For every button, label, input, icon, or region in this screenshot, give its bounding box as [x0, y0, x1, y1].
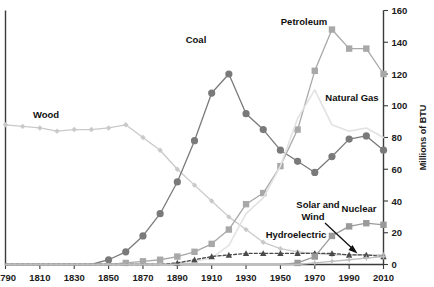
coal-label: Coal: [186, 34, 207, 45]
data-point-marker: [72, 127, 77, 132]
data-point-marker: [208, 89, 215, 96]
data-point-marker: [226, 226, 232, 232]
svg-text:1810: 1810: [29, 272, 50, 283]
data-point-marker: [312, 68, 318, 74]
svg-text:1990: 1990: [339, 272, 360, 283]
data-point-marker: [37, 125, 42, 130]
data-point-marker: [380, 222, 386, 228]
data-point-marker: [20, 124, 25, 129]
svg-text:1790: 1790: [0, 272, 16, 283]
svg-text:1890: 1890: [167, 272, 188, 283]
data-point-marker: [191, 137, 198, 144]
chart-figure: 1790181018301850187018901910193019501970…: [0, 0, 434, 287]
svg-text:0: 0: [392, 259, 397, 270]
data-point-marker: [346, 45, 352, 51]
data-point-marker: [106, 125, 111, 130]
svg-text:1850: 1850: [98, 272, 119, 283]
svg-text:140: 140: [392, 37, 408, 48]
data-point-marker: [380, 71, 386, 77]
data-point-marker: [277, 147, 284, 154]
energy-consumption-line-chart: 1790181018301850187018901910193019501970…: [0, 0, 434, 287]
solar-wind-label-line1: Solar and: [296, 199, 339, 210]
data-point-marker: [312, 253, 318, 259]
petroleum-label: Petroleum: [281, 16, 327, 27]
annotation-layer: WoodCoalPetroleumNatural GasNuclearHydro…: [33, 16, 379, 254]
svg-text:60: 60: [392, 164, 403, 175]
svg-text:2010: 2010: [373, 272, 394, 283]
series-line: [6, 90, 384, 265]
svg-text:80: 80: [392, 132, 403, 143]
svg-text:1830: 1830: [64, 272, 85, 283]
data-point-marker: [260, 126, 267, 133]
svg-text:1910: 1910: [201, 272, 222, 283]
natural-gas-label: Natural Gas: [325, 92, 378, 103]
data-point-marker: [363, 220, 369, 226]
nuclear-label: Nuclear: [342, 203, 377, 214]
data-point-marker: [243, 201, 249, 207]
svg-text:1970: 1970: [304, 272, 325, 283]
wood-label: Wood: [33, 109, 59, 120]
svg-text:1930: 1930: [235, 272, 256, 283]
data-point-marker: [139, 232, 146, 239]
series-line: [6, 125, 384, 255]
data-point-marker: [329, 233, 335, 239]
y-axis-title: Millions of BTU: [418, 105, 428, 171]
solar-wind-label-line2: Wind: [301, 211, 324, 222]
data-point-marker: [157, 210, 164, 217]
data-point-marker: [89, 127, 94, 132]
data-point-marker: [294, 158, 301, 165]
data-point-marker: [225, 70, 232, 77]
data-point-marker: [294, 126, 300, 132]
data-point-marker: [122, 248, 129, 255]
svg-text:1870: 1870: [132, 272, 153, 283]
data-point-marker: [380, 147, 387, 154]
data-point-marker: [157, 257, 163, 263]
data-point-marker: [311, 260, 318, 267]
data-point-marker: [54, 128, 59, 133]
svg-text:20: 20: [392, 227, 403, 238]
data-point-marker: [346, 135, 353, 142]
series-layer: [3, 26, 387, 266]
data-point-marker: [329, 26, 335, 32]
data-point-marker: [328, 153, 335, 160]
data-point-marker: [191, 249, 197, 255]
data-point-marker: [3, 122, 8, 127]
data-point-marker: [105, 256, 112, 263]
data-point-marker: [208, 241, 214, 247]
data-point-marker: [174, 178, 181, 185]
data-point-marker: [140, 258, 146, 264]
data-point-marker: [242, 110, 249, 117]
series-natural-gas: [6, 90, 384, 265]
data-point-marker: [329, 258, 336, 265]
data-point-marker: [174, 253, 180, 259]
svg-text:1950: 1950: [270, 272, 291, 283]
data-point-marker: [363, 45, 369, 51]
hydroelectric-label: Hydroelectric: [266, 229, 327, 240]
data-point-marker: [311, 169, 318, 176]
svg-text:160: 160: [392, 5, 408, 16]
data-point-marker: [346, 223, 352, 229]
series-line: [6, 30, 384, 265]
svg-text:40: 40: [392, 196, 403, 207]
series-petroleum: [6, 26, 387, 266]
data-point-marker: [363, 132, 370, 139]
data-point-marker: [294, 260, 300, 266]
svg-text:100: 100: [392, 100, 408, 111]
svg-text:120: 120: [392, 69, 408, 80]
